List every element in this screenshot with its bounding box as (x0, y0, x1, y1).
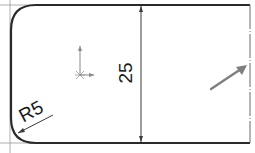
dimension-arrow-top-icon (139, 6, 143, 12)
dimension-arrow-bottom-icon (139, 136, 143, 142)
coordinate-origin-icon (75, 45, 95, 79)
direction-arrow-icon (211, 65, 247, 89)
radius-arrow-icon (18, 128, 25, 133)
radius-dimension-label[interactable]: R5 (15, 96, 46, 126)
sketch-canvas[interactable]: 25 R5 (0, 0, 255, 153)
radius-dimension[interactable]: R5 (15, 96, 53, 133)
height-dimension-label[interactable]: 25 (115, 62, 136, 83)
height-dimension[interactable]: 25 (115, 6, 143, 142)
construction-lines (0, 0, 40, 153)
